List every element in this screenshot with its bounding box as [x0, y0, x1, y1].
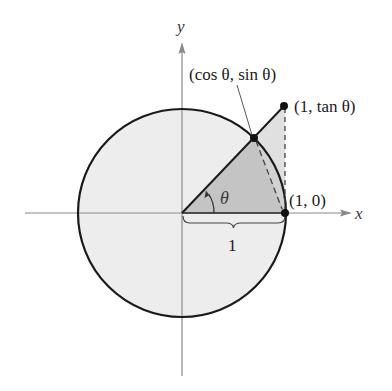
one-tan-label: (1, tan θ): [294, 97, 355, 116]
theta-label: θ: [220, 188, 229, 208]
x-axis-label: x: [354, 204, 363, 223]
y-axis-label: y: [175, 17, 185, 36]
cos-sin-label: (cos θ, sin θ): [189, 65, 276, 84]
point-one-tan: [280, 102, 288, 110]
radius-label: 1: [228, 236, 237, 255]
one-zero-label: (1, 0): [289, 191, 326, 210]
unit-circle-diagram: y x (cos θ, sin θ) (1, tan θ) (1, 0) θ 1: [0, 0, 392, 391]
point-one-zero: [281, 209, 289, 217]
point-cos-sin: [250, 134, 258, 142]
